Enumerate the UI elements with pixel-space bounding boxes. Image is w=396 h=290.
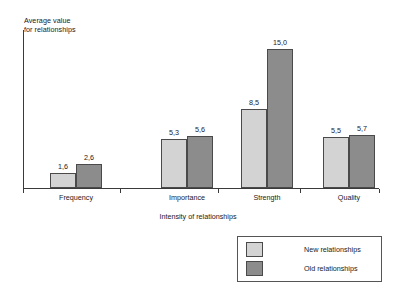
bar-quality-new	[323, 137, 349, 188]
bar-value-label: 2,6	[76, 154, 102, 162]
bar-value-label: 5,3	[161, 129, 187, 137]
bar-value-label: 5,5	[323, 127, 349, 135]
legend-swatch	[246, 261, 263, 276]
plot-area: 1,62,65,35,68,515,05,55,7	[23, 30, 379, 189]
category-label-quality: Quality	[309, 193, 389, 202]
bar-strength-old	[267, 49, 293, 188]
bar-quality-old	[349, 135, 375, 188]
bar-value-label: 5,7	[349, 125, 375, 133]
x-axis-title: Intensity of relationships	[0, 212, 396, 221]
legend-swatch	[246, 242, 263, 257]
bar-value-label: 8,5	[241, 99, 267, 107]
category-label-frequency: Frequency	[36, 193, 116, 202]
bar-group: 5,55,7	[323, 30, 375, 188]
x-axis-line	[23, 188, 379, 189]
x-axis-tick	[23, 189, 24, 193]
bar-frequency-old	[76, 164, 102, 188]
bar-value-label: 1,6	[50, 163, 76, 171]
category-label-importance: Importance	[147, 193, 227, 202]
x-axis-tick	[120, 189, 121, 193]
legend-label: New relationships	[304, 245, 361, 254]
bar-importance-new	[161, 139, 187, 188]
y-axis-line	[23, 30, 24, 189]
bar-group: 5,35,6	[161, 30, 213, 188]
legend: New relationshipsOld relationships	[237, 236, 382, 282]
category-label-strength: Strength	[227, 193, 307, 202]
legend-label: Old relationships	[304, 264, 358, 273]
bar-importance-old	[187, 136, 213, 188]
bar-frequency-new	[50, 173, 76, 188]
bar-chart: Average value for relationships 1,62,65,…	[0, 0, 396, 290]
bar-value-label: 15,0	[267, 39, 293, 47]
bar-strength-new	[241, 109, 267, 188]
bar-group: 8,515,0	[241, 30, 293, 188]
bar-value-label: 5,6	[187, 126, 213, 134]
bar-group: 1,62,6	[50, 30, 102, 188]
